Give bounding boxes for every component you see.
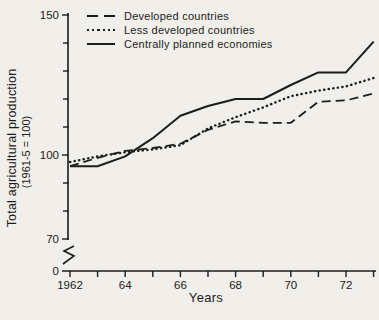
y-tick-label: 100 [40,149,59,161]
legend-label: Centrally planned economies [124,38,273,50]
x-tick-label: 72 [340,279,353,291]
legend-item-developed: Developed countries [87,9,273,23]
x-tick-label: 64 [119,279,132,291]
legend-item-centrally-planned: Centrally planned economies [87,37,273,51]
y-axis-subtitle: (1961-5 = 100) [20,52,34,252]
x-tick-label: 70 [284,279,297,291]
dashed-line-sample-icon [87,15,115,17]
legend-item-less-developed: Less developed countries [87,23,273,37]
solid-line-sample-icon [87,43,115,45]
chart-legend: Developed countries Less developed count… [87,9,273,51]
y-tick-label: 150 [40,9,59,21]
series-line-dashed [70,93,374,166]
x-axis-title: Years [166,290,246,305]
legend-label: Less developed countries [124,24,255,36]
y-zero-label: 0 [53,265,59,277]
legend-label: Developed countries [124,10,229,22]
series-line-dotted [70,78,374,162]
series-line-solid [70,42,374,167]
axis-break-mark [63,246,74,264]
dotted-line-sample-icon [87,29,115,31]
y-axis-title: Total agricultural production [5,18,21,278]
x-tick-label: 1962 [57,279,83,291]
y-tick-label: 70 [46,233,59,245]
chart-figure: 15010070019626466687072 Developed countr… [0,0,379,320]
